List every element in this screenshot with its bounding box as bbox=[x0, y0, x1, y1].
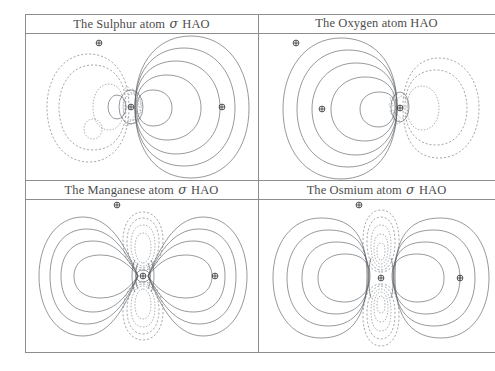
positive-contours-osmium-right bbox=[392, 218, 489, 338]
nucleus-marker-oxygen-center bbox=[397, 105, 403, 111]
nucleus-marker-sulphur-center bbox=[128, 104, 134, 110]
nucleus-marker-manganese-center bbox=[140, 273, 146, 279]
panel-title-oxygen: The Oxygen atom HAO bbox=[258, 14, 495, 33]
negative-contours-oxygen bbox=[403, 58, 479, 158]
negative-contours-osmium-top bbox=[363, 210, 399, 272]
nucleus-marker-manganese-right bbox=[212, 273, 218, 279]
figure-border-bottom bbox=[25, 352, 495, 353]
panel-title-osmium-prefix: The Osmium atom bbox=[307, 183, 402, 197]
negative-contours-sulphur bbox=[47, 54, 129, 162]
positive-contours-oxygen bbox=[283, 38, 397, 179]
panel-title-oxygen-prefix: The Oxygen atom bbox=[315, 16, 407, 30]
panel-title-osmium: The Osmium atom σ HAO bbox=[258, 180, 495, 199]
positive-contours-osmium-left bbox=[273, 218, 370, 338]
nucleus-marker-manganese-top bbox=[114, 202, 120, 208]
nucleus-marker-oxygen-left bbox=[319, 106, 325, 112]
contour-plot-sulphur bbox=[25, 34, 258, 180]
nucleus-marker-osmium-right bbox=[457, 275, 463, 281]
sigma-symbol-manganese: σ bbox=[177, 182, 188, 197]
panel-title-sulphur-suffix: HAO bbox=[182, 17, 209, 31]
panel-title-sulphur: The Sulphur atom σ HAO bbox=[25, 14, 258, 33]
nucleus-marker-sulphur-right bbox=[219, 104, 225, 110]
panel-title-manganese-suffix: HAO bbox=[191, 183, 218, 197]
nucleus-marker-oxygen-top bbox=[293, 40, 299, 46]
sigma-symbol-sulphur: σ bbox=[168, 16, 179, 31]
panel-title-sulphur-prefix: The Sulphur atom bbox=[73, 17, 165, 31]
negative-contours-manganese-top bbox=[123, 212, 163, 270]
nucleus-contour-cluster-sulphur bbox=[108, 87, 143, 126]
sigma-symbol-osmium: σ bbox=[405, 182, 416, 197]
nucleus-marker-osmium-top bbox=[356, 202, 362, 208]
panel-title-manganese-prefix: The Manganese atom bbox=[65, 183, 174, 197]
negative-contours-osmium-bottom bbox=[363, 284, 399, 346]
panel-title-manganese: The Manganese atom σ HAO bbox=[25, 180, 258, 199]
positive-contours-manganese-left bbox=[39, 217, 138, 336]
panel-title-oxygen-suffix: HAO bbox=[410, 16, 437, 30]
nucleus-marker-osmium-center bbox=[378, 275, 384, 281]
panel-title-osmium-suffix: HAO bbox=[419, 183, 446, 197]
contour-plot-manganese bbox=[25, 200, 258, 352]
nucleus-marker-sulphur-top bbox=[96, 40, 102, 46]
contour-plot-osmium bbox=[259, 200, 495, 352]
contour-plot-oxygen bbox=[259, 34, 495, 180]
positive-contours-sulphur bbox=[135, 36, 249, 178]
